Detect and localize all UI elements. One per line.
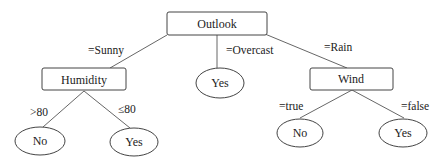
- edge-label-humidity-high: >80: [30, 106, 48, 118]
- leaf-humidity-low: Yes: [110, 128, 158, 156]
- edge-label-sunny: =Sunny: [88, 44, 124, 57]
- edge-humidity-high: [43, 91, 84, 127]
- edge-label-wind-true: =true: [279, 100, 303, 112]
- leaf-overcast-label: Yes: [211, 76, 229, 90]
- leaf-humidity-high: No: [15, 127, 65, 155]
- edge-wind-false: [352, 90, 404, 118]
- node-outlook: Outlook: [167, 12, 267, 35]
- leaf-wind-false: Yes: [379, 119, 427, 147]
- edge-wind-true: [300, 90, 352, 118]
- node-wind-label: Wind: [338, 72, 364, 86]
- edge-label-wind-false: =false: [401, 100, 429, 112]
- edge-label-rain: =Rain: [324, 41, 352, 53]
- node-wind: Wind: [310, 68, 393, 90]
- edge-label-overcast: =Overcast: [226, 44, 274, 56]
- leaf-humidity-high-label: No: [33, 134, 48, 148]
- decision-tree-diagram: Outlook Humidity Wind Yes No Yes No Yes …: [0, 0, 442, 159]
- node-humidity-label: Humidity: [61, 73, 107, 87]
- leaf-wind-true: No: [277, 119, 323, 147]
- edge-label-humidity-low: ≤80: [118, 103, 136, 115]
- node-humidity: Humidity: [42, 68, 126, 90]
- leaf-humidity-low-label: Yes: [125, 135, 143, 149]
- leaf-overcast: Yes: [196, 68, 244, 98]
- leaf-wind-true-label: No: [293, 126, 308, 140]
- node-outlook-label: Outlook: [197, 17, 236, 31]
- leaf-wind-false-label: Yes: [394, 126, 412, 140]
